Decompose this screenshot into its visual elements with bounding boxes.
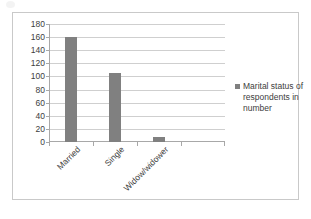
legend-item-label: Marital status of respondents in number [243,81,309,114]
chart-screenshot: 180160140120100806040200 MarriedSingleWi… [0,0,311,219]
y-axis-tick-label: 40 [36,112,45,121]
y-axis-tick-label: 80 [36,85,45,94]
x-axis-category-label: Married [0,145,82,219]
y-axis-tick-label: 60 [36,98,45,107]
plot-area: 180160140120100806040200 [49,24,225,142]
chart-frame: 180160140120100806040200 MarriedSingleWi… [12,12,299,200]
x-axis-labels: MarriedSingleWidow/widower [49,145,225,205]
y-axis-tick-label: 160 [31,33,45,42]
y-axis-tick-label: 120 [31,59,45,68]
bar-slot [93,24,137,142]
bar[interactable] [109,73,121,142]
bar-slot [181,24,225,142]
scan-artifact [6,1,15,8]
legend-swatch-icon [235,84,240,89]
legend-item: Marital status of respondents in number [235,81,309,114]
bar-slot [49,24,93,142]
y-axis-tick-label: 20 [36,125,45,134]
chart-legend: Marital status of respondents in number [235,81,309,114]
y-axis-tick-label: 180 [31,20,45,29]
y-axis-tick-label: 100 [31,72,45,81]
bar[interactable] [153,137,165,142]
y-axis-tick-label: 140 [31,46,45,55]
bar[interactable] [65,37,77,142]
bars-layer [49,24,225,142]
bar-slot [137,24,181,142]
y-axis-tick-label: 0 [40,138,45,147]
